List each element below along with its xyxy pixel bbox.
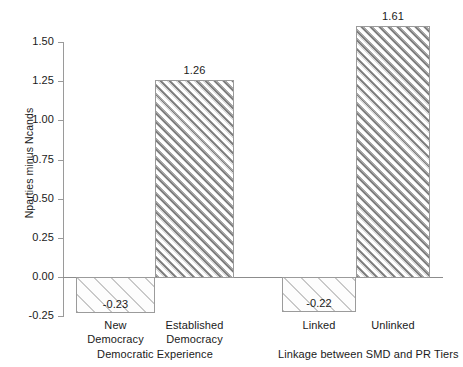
y-tick-mark-1.50: [58, 42, 64, 43]
y-tick-label-0.75: 0.75: [0, 153, 54, 165]
category-label-unlinked: Unlinked: [356, 318, 430, 332]
y-tick-label-0.25: 0.25: [0, 231, 54, 243]
y-tick-label-1.50: 1.50: [0, 35, 54, 47]
category-label-line-2: Democracy: [145, 332, 244, 346]
category-label-line-1: New: [76, 318, 155, 332]
category-label-line-1: Unlinked: [356, 318, 430, 332]
y-tick-mark-1.25: [58, 81, 64, 82]
category-label-line-2: Democracy: [76, 332, 155, 346]
y-tick-mark-0.25: [58, 238, 64, 239]
y-tick-mark-1.00: [58, 120, 64, 121]
category-label-line-1: Established: [145, 318, 244, 332]
category-label-new-democracy: New Democracy: [76, 318, 155, 346]
y-tick-label-0.00: 0.00: [0, 270, 54, 282]
y-tick-mark-0.50: [58, 199, 64, 200]
bar-value-new-democracy: -0.23: [76, 298, 155, 310]
y-tick-label-1.00: 1.00: [0, 113, 54, 125]
y-tick-mark--0.25: [58, 316, 64, 317]
bar-value-linked: -0.22: [282, 297, 356, 309]
group-label-linkage-smd-pr-tiers: Linkage between SMD and PR Tiers: [278, 348, 434, 360]
bar-value-established-democracy: 1.26: [155, 64, 234, 76]
y-axis-line: [63, 42, 64, 316]
bar-unlinked: [356, 26, 430, 278]
y-tick-label-1.25: 1.25: [0, 74, 54, 86]
bar-value-unlinked: 1.61: [356, 10, 430, 22]
y-tick-label-0.50: 0.50: [0, 192, 54, 204]
y-tick-label--0.25: -0.25: [0, 309, 54, 321]
bar-established-democracy: [155, 80, 234, 278]
bar-chart: Nparties minus Ncands 1.50 1.25 1.00 0.7…: [0, 0, 463, 367]
category-label-linked: Linked: [282, 318, 356, 332]
y-tick-mark-0.75: [58, 160, 64, 161]
group-label-democratic-experience: Democratic Experience: [76, 348, 234, 360]
category-label-established-democracy: Established Democracy: [145, 318, 244, 346]
category-label-line-1: Linked: [282, 318, 356, 332]
